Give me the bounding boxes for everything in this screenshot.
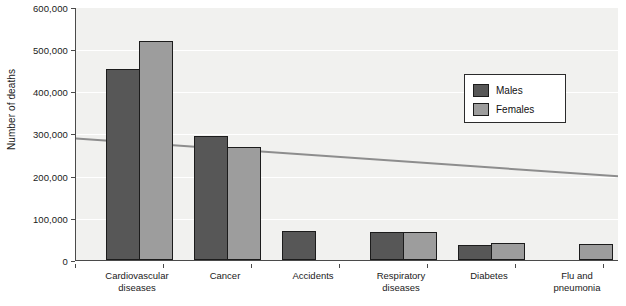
y-axis-tick-label: 0 — [63, 256, 68, 267]
bar-males-cardiovascular — [106, 69, 140, 260]
legend-item-females: Females — [473, 102, 534, 116]
legend-swatch-icon — [473, 84, 489, 97]
x-axis-label-accidents: Accidents — [292, 270, 333, 282]
x-axis-label-diabetes: Diabetes — [470, 270, 508, 282]
bar-chart: Number of deaths 600,000 500,000 400,000… — [0, 0, 626, 306]
y-axis-tick-label: 300,000 — [33, 129, 68, 140]
bar-females-cancer — [227, 147, 261, 260]
x-axis-label-flu-pneumonia: Flu and pneumonia — [553, 270, 600, 293]
x-axis: Cardiovascular diseases Cancer Accidents… — [75, 264, 618, 306]
bar-females-flu-pneumonia — [579, 244, 613, 260]
x-axis-tick — [251, 264, 252, 268]
x-axis-label-cardiovascular: Cardiovascular diseases — [105, 270, 168, 293]
plot-area: Males Females — [75, 8, 618, 261]
legend-item-males: Males — [473, 83, 523, 97]
y-axis-tick — [71, 261, 75, 262]
y-axis-tick-label: 500,000 — [33, 45, 68, 56]
bar-males-accidents — [282, 231, 316, 260]
y-axis-title: Number of deaths — [6, 35, 17, 185]
x-axis-tick — [603, 264, 604, 268]
x-axis-tick — [515, 264, 516, 268]
x-axis-tick — [427, 264, 428, 268]
y-axis: Number of deaths 600,000 500,000 400,000… — [0, 0, 75, 262]
y-axis-tick-label: 600,000 — [33, 3, 68, 14]
x-axis-tick — [339, 264, 340, 268]
legend-swatch-icon — [473, 103, 489, 116]
x-axis-tick — [75, 264, 76, 268]
x-axis-label-cancer: Cancer — [210, 270, 241, 282]
bar-females-diabetes — [491, 243, 525, 260]
legend-label: Females — [496, 104, 534, 115]
legend: Males Females — [464, 74, 566, 123]
bar-females-respiratory — [403, 232, 437, 260]
bar-males-respiratory — [370, 232, 404, 260]
x-axis-label-respiratory: Respiratory diseases — [377, 270, 426, 293]
legend-label: Males — [496, 85, 523, 96]
bar-males-cancer — [194, 136, 228, 260]
bar-group-container — [76, 8, 618, 260]
y-axis-tick-label: 200,000 — [33, 172, 68, 183]
y-axis-tick-label: 100,000 — [33, 214, 68, 225]
bar-males-diabetes — [458, 245, 492, 260]
x-axis-tick — [163, 264, 164, 268]
bar-females-cardiovascular — [139, 41, 173, 260]
y-axis-tick-label: 400,000 — [33, 87, 68, 98]
